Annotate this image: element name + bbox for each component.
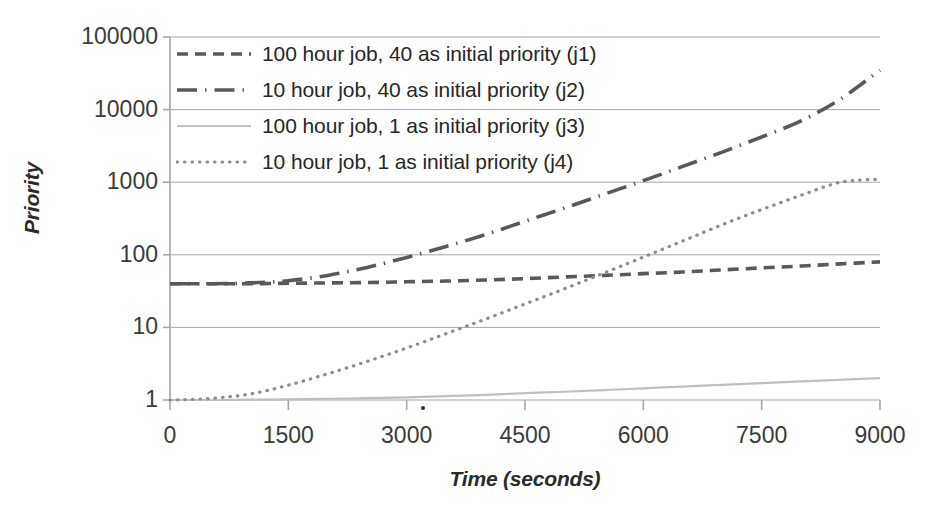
legend-item-j2[interactable]: 10 hour job, 40 as initial priority (j2) — [176, 72, 646, 108]
legend-line-sample-icon — [176, 82, 252, 98]
x-tick-label: 1500 — [228, 424, 348, 447]
legend-item-label: 10 hour job, 40 as initial priority (j2) — [262, 78, 585, 102]
series-line-j1 — [170, 262, 880, 284]
legend-item-label: 100 hour job, 40 as initial priority (j1… — [262, 42, 596, 66]
legend-line-sample-icon — [176, 154, 252, 170]
x-tick-label: 3000 — [347, 424, 467, 447]
y-tick-label: 1 — [48, 388, 158, 411]
legend-item-j4[interactable]: 10 hour job, 1 as initial priority (j4) — [176, 144, 646, 180]
series-line-j4 — [170, 179, 880, 400]
legend-item-label: 10 hour job, 1 as initial priority (j4) — [262, 150, 573, 174]
series-line-j3 — [170, 378, 880, 400]
y-tick-label: 100 — [48, 243, 158, 266]
legend-line-sample-icon — [176, 46, 252, 62]
x-tick-label: 6000 — [583, 424, 703, 447]
x-tick-label: 0 — [110, 424, 230, 447]
legend-item-j1[interactable]: 100 hour job, 40 as initial priority (j1… — [176, 36, 646, 72]
y-tick-label: 10000 — [48, 98, 158, 121]
scan-artifact-dot — [421, 406, 425, 410]
legend-item-label: 100 hour job, 1 as initial priority (j3) — [262, 114, 585, 138]
priority-vs-time-chart: Priority 110100100010000100000 015003000… — [0, 0, 930, 511]
legend-item-j3[interactable]: 100 hour job, 1 as initial priority (j3) — [176, 108, 646, 144]
y-tick-label: 10 — [48, 315, 158, 338]
x-tick-label: 7500 — [702, 424, 822, 447]
x-tick-label: 9000 — [820, 424, 930, 447]
y-tick-label: 100000 — [48, 25, 158, 48]
chart-legend: 100 hour job, 40 as initial priority (j1… — [176, 36, 646, 180]
y-tick-label: 1000 — [48, 170, 158, 193]
x-axis-title: Time (seconds) — [170, 467, 880, 491]
x-tick-label: 4500 — [465, 424, 585, 447]
legend-line-sample-icon — [176, 118, 252, 134]
